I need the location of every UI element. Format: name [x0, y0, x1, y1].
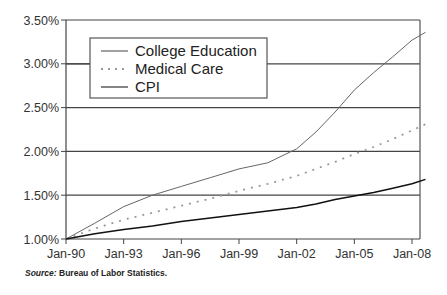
x-tick-label: Jan-96 [162, 247, 200, 261]
y-axis-ticks: 1.00%1.50%2.00%2.50%3.00%3.50% [24, 14, 66, 247]
x-axis-ticks: Jan-90Jan-93Jan-96Jan-99Jan-02Jan-05Jan-… [47, 239, 431, 261]
source-note: Source: Bureau of Labor Statistics. [25, 268, 167, 278]
x-tick-label: Jan-02 [278, 247, 316, 261]
y-tick-label: 1.50% [24, 189, 59, 203]
x-tick-label: Jan-90 [47, 247, 85, 261]
legend-label-college: College Education [135, 42, 257, 59]
source-label: Source: [25, 268, 57, 278]
y-tick-label: 3.50% [24, 14, 59, 28]
legend-label-medical: Medical Care [135, 60, 223, 77]
y-tick-label: 3.00% [24, 57, 59, 71]
series-medical-care [66, 124, 426, 239]
y-tick-label: 1.00% [24, 233, 59, 247]
y-tick-label: 2.50% [24, 101, 59, 115]
line-chart: 1.00%1.50%2.00%2.50%3.00%3.50% Jan-90Jan… [0, 0, 447, 295]
y-tick-label: 2.00% [24, 145, 59, 159]
x-tick-label: Jan-99 [220, 247, 258, 261]
x-tick-label: Jan-93 [105, 247, 143, 261]
x-tick-label: Jan-05 [335, 247, 373, 261]
source-text: Bureau of Labor Statistics. [57, 268, 168, 278]
legend-label-cpi: CPI [135, 78, 160, 95]
legend: College Education Medical Care CPI [90, 38, 267, 98]
x-tick-label: Jan-08 [393, 247, 431, 261]
